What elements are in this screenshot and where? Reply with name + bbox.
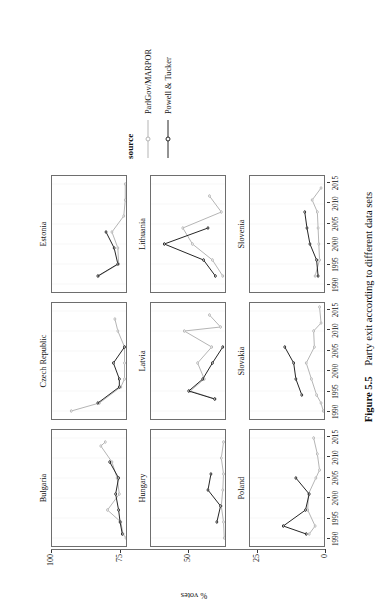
data-point	[202, 258, 204, 261]
facet-panel: Czech Republic	[37, 302, 127, 420]
data-point	[96, 401, 98, 404]
data-point	[111, 230, 113, 233]
data-point	[213, 397, 215, 400]
data-point	[124, 182, 126, 185]
x-tick-mark	[327, 349, 330, 350]
x-tick-mark	[327, 537, 330, 538]
series-powell-tucker	[108, 460, 122, 535]
panel-plot-box	[249, 302, 325, 420]
legend-title: source	[125, 29, 135, 159]
data-point	[314, 274, 316, 277]
panel-plot-box	[51, 175, 127, 293]
x-axis-column: 199019952000200520102015	[327, 429, 347, 547]
data-point	[308, 532, 310, 535]
x-tick-mark	[327, 309, 330, 310]
data-point	[294, 377, 296, 380]
series-line	[164, 228, 215, 276]
data-point	[108, 460, 110, 463]
series-parlgov-marpor	[183, 313, 221, 400]
data-point	[181, 226, 183, 229]
panel-title: Estonia	[37, 175, 51, 293]
panel-title: Lithuania	[136, 175, 150, 293]
data-point	[221, 345, 223, 348]
data-point	[121, 532, 123, 535]
legend-label: ParlGov/MARPOR	[143, 48, 152, 113]
panel-title: Hungary	[136, 429, 150, 547]
data-point	[114, 317, 116, 320]
y-tick-label: 25	[252, 554, 260, 562]
legend-entry[interactable]: Powell & Tucker	[162, 29, 174, 159]
x-tick-mark	[327, 283, 330, 284]
y-tick-label: 100	[47, 554, 55, 566]
x-tick-label: 2000	[332, 491, 340, 505]
x-tick-mark	[327, 390, 330, 391]
panel-plot-box	[249, 175, 325, 293]
panel-title: Slovakia	[235, 302, 249, 420]
panel-chart	[52, 430, 126, 546]
data-point	[223, 536, 225, 539]
data-point	[117, 508, 119, 511]
series-powell-tucker	[207, 472, 221, 523]
data-point	[122, 214, 124, 217]
figure-caption: Figure 5.5 Party exit according to diffe…	[363, 191, 374, 421]
legend: source ParlGov/MARPORPowell & Tucker	[125, 29, 182, 159]
x-tick-label: 1995	[332, 257, 340, 271]
data-point	[187, 389, 189, 392]
x-tick-mark	[327, 243, 330, 244]
series-powell-tucker	[282, 476, 310, 535]
x-tick-mark	[327, 329, 330, 330]
facet-panel: Hungary	[136, 429, 226, 547]
x-axis-column: 199019952000200520102015	[327, 175, 347, 293]
panel-plot-box	[150, 175, 226, 293]
data-point	[318, 258, 320, 261]
series-parlgov-marpor	[220, 440, 225, 539]
x-tick-mark	[327, 410, 330, 411]
series-line	[283, 478, 309, 534]
panel-chart	[151, 176, 225, 292]
x-tick-label: 2015	[332, 302, 340, 316]
data-point	[312, 436, 314, 439]
data-point	[282, 524, 284, 527]
y-tick-label: 75	[115, 554, 123, 562]
data-point	[316, 452, 318, 455]
data-point	[309, 242, 311, 245]
panel-chart	[151, 303, 225, 419]
x-tick-label: 1990	[332, 277, 340, 291]
legend-entries: ParlGov/MARPORPowell & Tucker	[142, 29, 174, 159]
data-point	[112, 361, 114, 364]
data-point	[312, 329, 314, 332]
data-point	[207, 488, 209, 491]
y-tick-label: 0	[321, 554, 329, 558]
caption-container: Figure 5.5 Party exit according to diffe…	[351, 0, 385, 613]
legend-entry[interactable]: ParlGov/MARPOR	[142, 29, 154, 159]
data-point	[318, 305, 320, 308]
facet-panel: Bulgaria	[37, 429, 127, 547]
data-point	[116, 329, 118, 332]
data-point	[210, 345, 212, 348]
x-tick-label: 1995	[332, 511, 340, 525]
data-point	[208, 194, 210, 197]
data-point	[123, 361, 125, 364]
x-tick-label: 2015	[332, 429, 340, 443]
series-powell-tucker	[163, 226, 216, 277]
data-point	[118, 385, 120, 388]
x-tick-label: 2015	[332, 175, 340, 189]
data-point	[118, 492, 120, 495]
panel-chart	[52, 303, 126, 419]
x-tick-mark	[327, 222, 330, 223]
panel-plot-box	[51, 302, 127, 420]
data-point	[201, 377, 203, 380]
panel-chart	[250, 303, 324, 419]
x-tick-label: 2010	[332, 450, 340, 464]
x-tick-label: 2000	[332, 237, 340, 251]
data-point	[210, 472, 212, 475]
data-point	[211, 361, 213, 364]
data-point	[222, 520, 224, 523]
panel-grid: BulgariaCzech RepublicEstoniaHungaryLatv…	[37, 175, 325, 547]
data-point	[306, 226, 308, 229]
legend-label: Powell & Tucker	[163, 57, 172, 114]
panel-plot-box	[249, 429, 325, 547]
panel-title: Latvia	[136, 302, 150, 420]
data-point	[294, 476, 296, 479]
data-point	[124, 198, 126, 201]
